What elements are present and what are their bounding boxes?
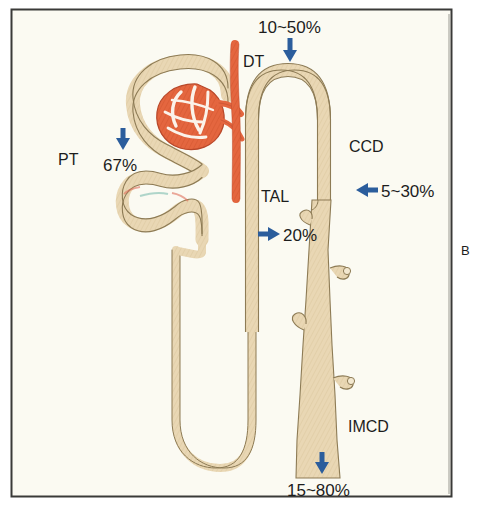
value-imcd: 15~80% — [287, 481, 350, 500]
label-ccd: CCD — [349, 138, 384, 155]
panel-letter: B — [461, 243, 470, 258]
value-tal: 20% — [283, 226, 317, 245]
label-imcd: IMCD — [348, 418, 389, 435]
value-ccd: 5~30% — [381, 182, 434, 201]
label-pt: PT — [58, 151, 79, 168]
label-dt: DT — [243, 53, 265, 70]
value-top: 10~50% — [258, 18, 321, 37]
value-pt: 67% — [103, 156, 137, 175]
thick-ascending-limb — [246, 120, 259, 332]
label-tal: TAL — [261, 188, 289, 205]
nephron-figure: DT 10~50% PT 67% TAL 20% CCD 5~30% IMCD … — [0, 0, 479, 509]
nephron-diagram: DT 10~50% PT 67% TAL 20% CCD 5~30% IMCD … — [0, 0, 479, 509]
